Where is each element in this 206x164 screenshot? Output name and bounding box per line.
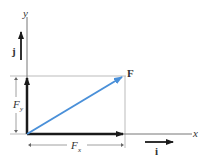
fx-label: F x xyxy=(70,139,82,154)
y-axis-label: y xyxy=(22,7,28,19)
unit-j-label: j xyxy=(11,45,16,57)
fy-label: F y xyxy=(12,98,24,113)
svg-text:F: F xyxy=(70,139,78,151)
vector-f-arrow xyxy=(27,77,122,134)
vector-diagram: y x F j i F y F x xyxy=(0,0,206,164)
svg-text:x: x xyxy=(77,146,82,154)
vector-f-label: F xyxy=(127,67,134,79)
svg-text:F: F xyxy=(12,98,20,110)
svg-text:y: y xyxy=(19,105,24,113)
unit-i-label: i xyxy=(155,145,158,157)
x-axis-label: x xyxy=(192,127,198,139)
